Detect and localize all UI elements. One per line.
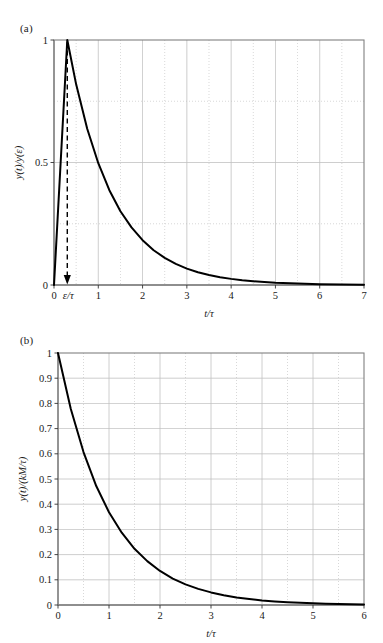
x-tick-label: 0 xyxy=(55,610,60,621)
x-tick-label: 6 xyxy=(317,290,322,301)
x-tick-label: 3 xyxy=(208,610,213,621)
y-tick-label: 0 xyxy=(47,600,52,611)
y-tick-label: 0.1 xyxy=(39,574,52,585)
y-tick-label: 0.5 xyxy=(35,157,48,168)
panel-a-plot: 0123456700.51ε/τt/τy(t)/y(ε) xyxy=(0,0,383,320)
y-axis-title: y(t)/(kM/τ) xyxy=(17,456,29,502)
y-tick-label: 0.2 xyxy=(39,549,52,560)
panel-b-plot: 012345600.10.20.30.40.50.60.70.80.91t/τy… xyxy=(0,320,383,643)
y-tick-label: 0.8 xyxy=(39,398,52,409)
figure-root: (a) 0123456700.51ε/τt/τy(t)/y(ε) (b) 012… xyxy=(0,0,383,643)
x-axis-title: t/τ xyxy=(204,308,215,319)
y-tick-label: 1 xyxy=(47,348,52,359)
y-tick-label: 0.6 xyxy=(39,448,52,459)
x-axis-title: t/τ xyxy=(206,628,217,639)
x-tick-label: 4 xyxy=(259,610,265,621)
annotation-label-epsilon-tau: ε/τ xyxy=(63,290,75,301)
x-tick-label: 5 xyxy=(273,290,278,301)
y-tick-label: 0.3 xyxy=(39,524,52,535)
x-tick-label: 2 xyxy=(140,290,145,301)
x-tick-label: 0 xyxy=(51,290,56,301)
y-tick-label: 0.9 xyxy=(39,373,52,384)
x-tick-label: 5 xyxy=(310,610,315,621)
x-tick-label: 3 xyxy=(184,290,189,301)
x-tick-label: 2 xyxy=(157,610,162,621)
y-tick-label: 1 xyxy=(43,35,48,46)
x-tick-label: 6 xyxy=(361,610,366,621)
y-tick-label: 0.4 xyxy=(39,499,53,510)
y-tick-label: 0.5 xyxy=(39,474,52,485)
x-tick-label: 7 xyxy=(361,290,366,301)
x-tick-label: 1 xyxy=(106,610,111,621)
y-tick-label: 0 xyxy=(43,280,48,291)
panel-a: (a) 0123456700.51ε/τt/τy(t)/y(ε) xyxy=(0,0,383,320)
x-tick-label: 4 xyxy=(229,290,235,301)
y-tick-label: 0.7 xyxy=(39,423,52,434)
annotation-arrowhead xyxy=(64,275,71,285)
panel-b: (b) 012345600.10.20.30.40.50.60.70.80.91… xyxy=(0,320,383,643)
x-tick-label: 1 xyxy=(96,290,101,301)
y-axis-title: y(t)/y(ε) xyxy=(13,145,25,180)
